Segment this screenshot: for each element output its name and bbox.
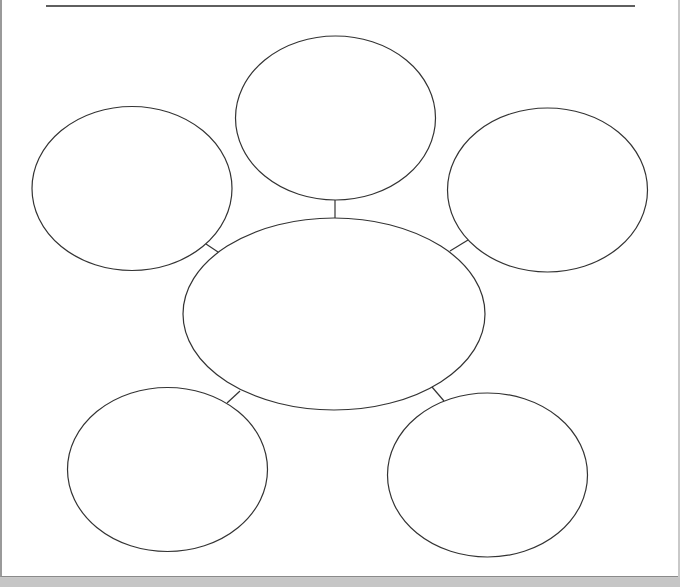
- outer-oval-lower-right: [388, 393, 588, 557]
- outer-oval-group: [32, 36, 648, 557]
- connector-lower-left: [227, 391, 240, 403]
- connector-upper-left: [206, 244, 218, 252]
- connector-upper-right: [450, 240, 468, 251]
- connector-group: [206, 200, 468, 403]
- outer-oval-lower-left: [68, 388, 268, 552]
- outer-oval-top: [236, 36, 436, 200]
- connector-lower-right: [432, 387, 444, 401]
- center-oval: [183, 218, 485, 410]
- outer-oval-upper-left: [32, 107, 232, 271]
- outer-oval-upper-right: [448, 108, 648, 272]
- organizer-page: [0, 0, 680, 587]
- bubble-map-diagram: [0, 0, 680, 587]
